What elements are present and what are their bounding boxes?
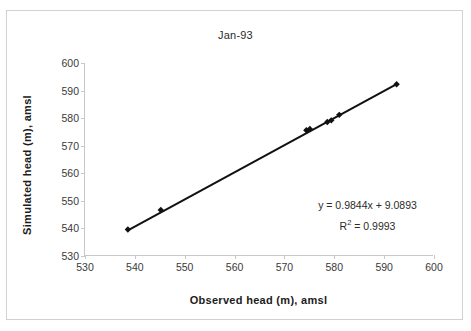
y-axis-tick-mark: [81, 146, 85, 147]
x-axis-tick-mark: [235, 255, 236, 259]
x-axis-tick-mark: [434, 255, 435, 259]
x-axis-tick-label: 600: [425, 261, 443, 273]
x-axis-tick-label: 580: [326, 261, 344, 273]
chart-title: Jan-93: [7, 29, 464, 41]
y-axis-tick-mark: [81, 118, 85, 119]
x-axis-tick-mark: [384, 255, 385, 259]
x-axis-tick-mark: [334, 255, 335, 259]
y-axis-tick-label: 570: [61, 140, 79, 152]
y-axis-tick-mark: [81, 63, 85, 64]
r-squared-value: R2 = 0.9993: [295, 214, 440, 235]
y-axis-tick-label: 540: [61, 222, 79, 234]
y-axis-tick-mark: [81, 201, 85, 202]
trendline-annotation: y = 0.9844x + 9.0893 R2 = 0.9993: [295, 197, 440, 235]
x-axis-tick-label: 560: [226, 261, 244, 273]
x-axis-tick-label: 540: [126, 261, 144, 273]
y-axis-tick-label: 550: [61, 195, 79, 207]
data-point-marker: [125, 226, 131, 232]
y-axis-tick-label: 560: [61, 167, 79, 179]
r-squared-number: = 0.9993: [351, 220, 395, 232]
x-axis-tick-label: 570: [276, 261, 294, 273]
y-axis-tick-mark: [81, 91, 85, 92]
x-axis-tick-label: 590: [375, 261, 393, 273]
y-axis-title: Simulated head (m), amsl: [21, 65, 33, 265]
x-axis-tick-mark: [135, 255, 136, 259]
x-axis-tick-mark: [284, 255, 285, 259]
y-axis-tick-label: 600: [61, 57, 79, 69]
y-axis-tick-label: 590: [61, 85, 79, 97]
y-axis-tick-label: 580: [61, 112, 79, 124]
y-axis-tick-mark: [81, 173, 85, 174]
x-axis-tick-mark: [185, 255, 186, 259]
y-axis-tick-mark: [81, 228, 85, 229]
x-axis-tick-label: 530: [76, 261, 94, 273]
x-axis-tick-label: 550: [176, 261, 194, 273]
data-point-marker: [393, 81, 399, 87]
chart-screenshot: Jan-93 530540550560570580590600530540550…: [0, 0, 471, 331]
chart-frame: Jan-93 530540550560570580590600530540550…: [6, 10, 463, 320]
x-axis-tick-mark: [85, 255, 86, 259]
x-axis-title: Observed head (m), amsl: [84, 294, 433, 306]
trendline-equation: y = 0.9844x + 9.0893: [295, 197, 440, 214]
